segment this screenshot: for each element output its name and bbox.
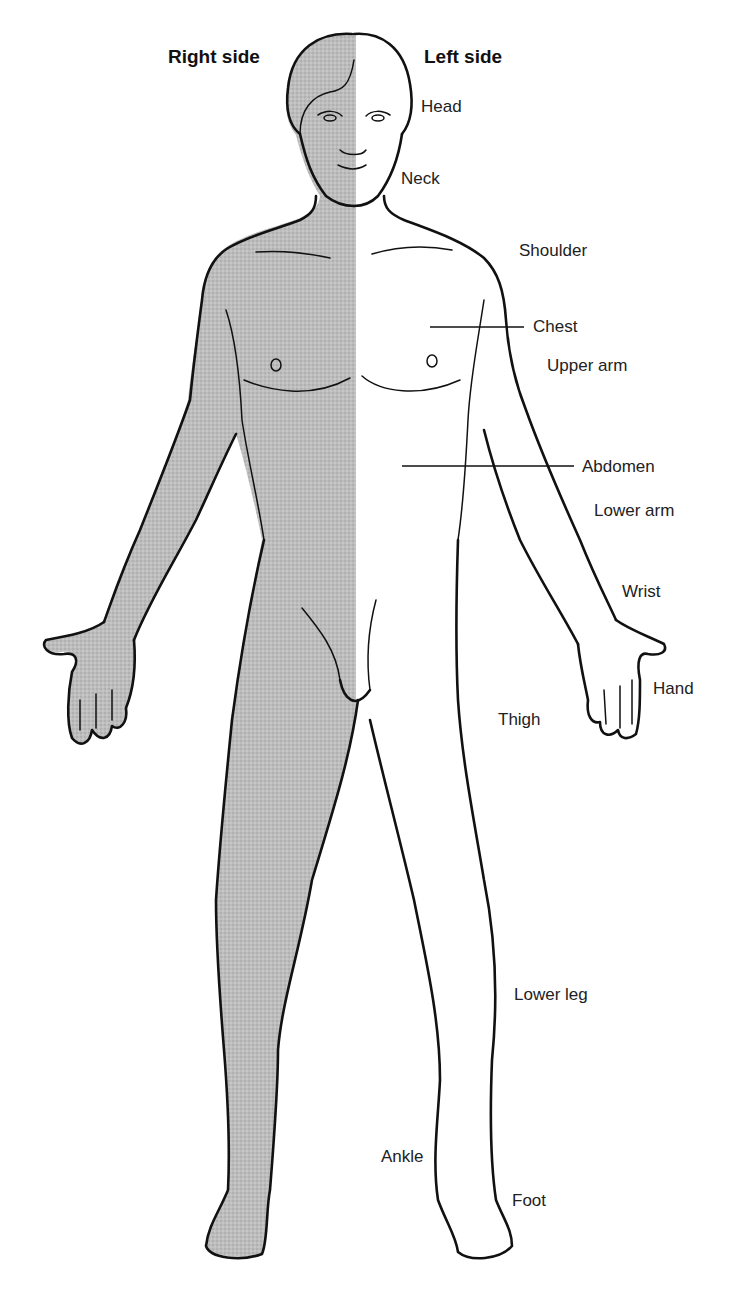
body-figure bbox=[0, 0, 729, 1289]
left-side-outline bbox=[318, 34, 665, 1258]
label-lower-leg: Lower leg bbox=[514, 986, 588, 1003]
label-thigh: Thigh bbox=[498, 711, 541, 728]
label-lower-arm: Lower arm bbox=[594, 502, 674, 519]
right-side-shading bbox=[44, 34, 358, 1257]
label-chest: Chest bbox=[533, 318, 577, 335]
label-head: Head bbox=[421, 98, 462, 115]
label-neck: Neck bbox=[401, 170, 440, 187]
label-ankle: Ankle bbox=[381, 1148, 424, 1165]
label-shoulder: Shoulder bbox=[519, 242, 587, 259]
label-wrist: Wrist bbox=[622, 583, 660, 600]
label-upper-arm: Upper arm bbox=[547, 357, 627, 374]
right-side-title: Right side bbox=[168, 47, 260, 66]
left-side-title: Left side bbox=[424, 47, 502, 66]
label-abdomen: Abdomen bbox=[582, 458, 655, 475]
label-hand: Hand bbox=[653, 680, 694, 697]
label-foot: Foot bbox=[512, 1192, 546, 1209]
